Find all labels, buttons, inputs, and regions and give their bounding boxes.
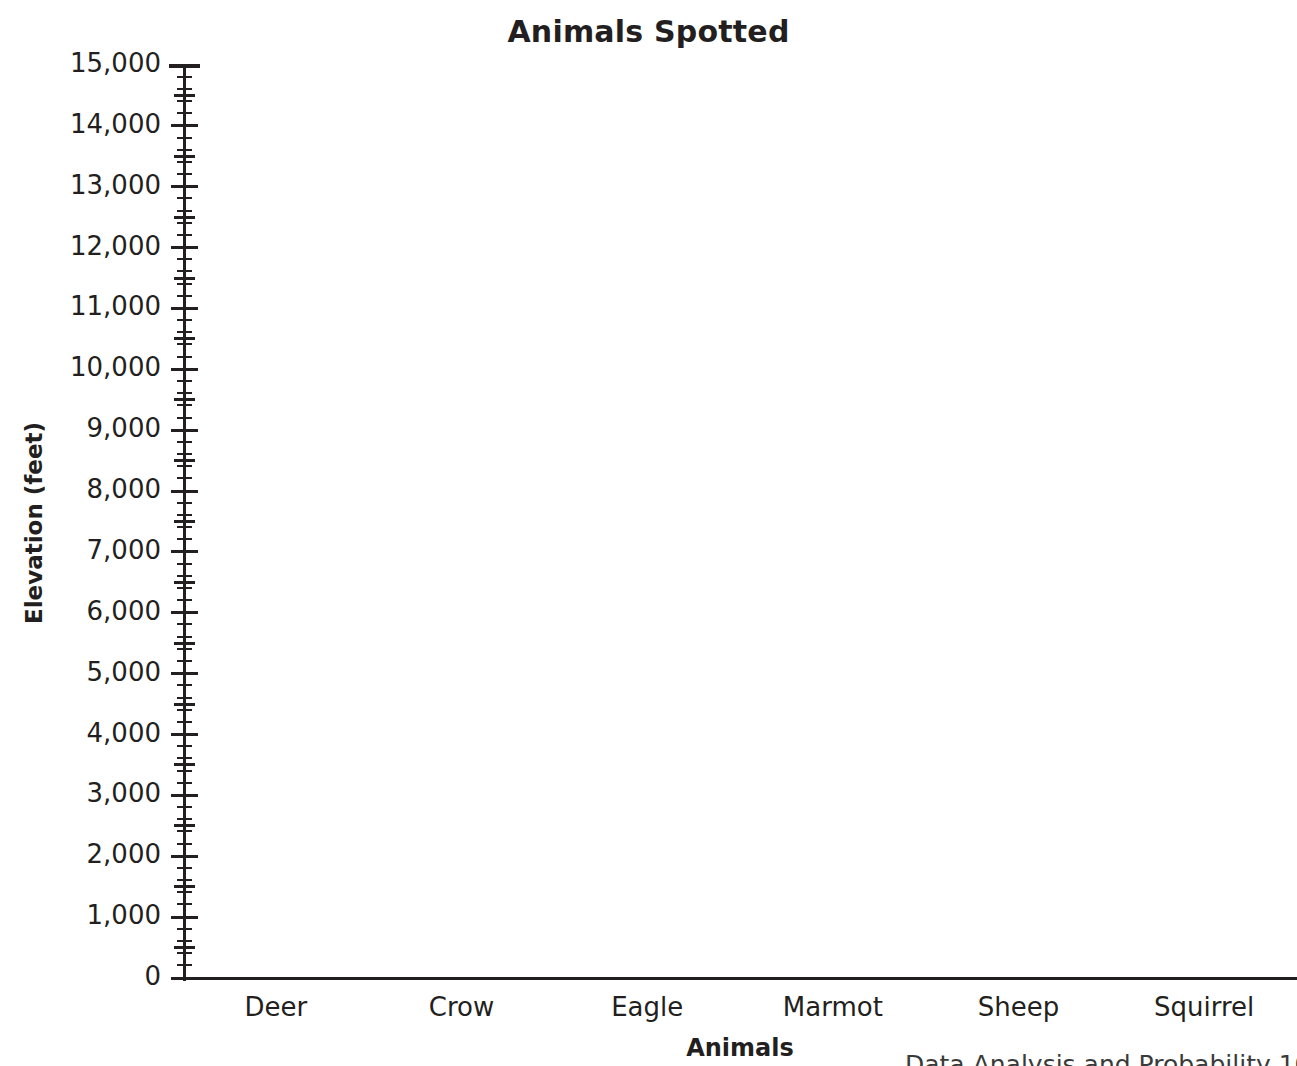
y-axis-minor-tick [177,319,192,321]
y-axis-tick-label: 14,000 [70,111,161,137]
y-axis-minor-tick [177,331,192,333]
y-axis-major-tick [171,672,198,675]
y-axis-mid-tick [174,642,195,645]
x-axis-category-label: Squirrel [1111,992,1297,1032]
y-axis-minor-tick [177,891,192,893]
y-axis-minor-tick [177,538,192,540]
x-axis-category-label: Marmot [740,992,926,1032]
y-axis-minor-tick [177,258,192,260]
y-axis-minor-tick [177,599,192,601]
y-axis-major-tick [171,550,198,553]
y-axis-tick-label: 5,000 [87,659,161,685]
y-axis-minor-tick [177,879,192,881]
page-footer: Data Analysis and Probability 107 [905,1050,1297,1066]
y-axis-mid-tick [174,520,195,523]
y-axis-mid-tick [174,824,195,827]
y-axis-mid-tick [174,946,195,949]
y-axis-tick-label: 6,000 [87,598,161,624]
y-axis-minor-tick [177,149,192,151]
x-axis-line [183,977,1297,980]
y-axis-minor-tick [177,210,192,212]
y-axis-mid-tick [174,216,195,219]
y-axis-major-tick [171,124,198,127]
y-axis-minor-tick [177,843,192,845]
y-axis-tick-label: 9,000 [87,415,161,441]
y-axis-minor-tick [177,404,192,406]
y-axis-minor-tick [177,964,192,966]
y-axis-minor-tick [177,283,192,285]
y-axis-minor-tick [177,417,192,419]
x-axis-category-label: Crow [369,992,555,1032]
y-axis-major-tick [171,368,198,371]
y-axis-tick-label: 10,000 [70,354,161,380]
y-axis-mid-tick [174,94,195,97]
y-axis-tick-label: 3,000 [87,780,161,806]
y-axis-minor-tick [177,356,192,358]
y-axis-mid-tick [174,885,195,888]
y-axis-minor-tick [177,173,192,175]
y-axis-minor-tick [177,453,192,455]
y-axis-minor-tick [177,380,192,382]
y-axis-tick-label: 8,000 [87,476,161,502]
y-axis-minor-tick [177,867,192,869]
y-axis-minor-tick [177,161,192,163]
x-axis-category-label: Sheep [926,992,1112,1032]
x-axis-category-label: Eagle [554,992,740,1032]
y-axis-major-tick [171,246,198,249]
y-axis-major-tick [171,611,198,614]
y-axis-minor-tick [177,940,192,942]
y-axis-major-tick [171,307,198,310]
y-axis-minor-tick [177,757,192,759]
y-axis-mid-tick [174,763,195,766]
y-axis-major-tick [171,733,198,736]
y-axis-major-tick [171,916,198,919]
y-axis-minor-tick [177,928,192,930]
y-axis-tick-label: 1,000 [87,902,161,928]
y-axis-major-tick [171,794,198,797]
y-axis-major-tick [171,429,198,432]
y-axis-minor-tick [177,222,192,224]
y-axis-minor-tick [177,806,192,808]
y-axis-mid-tick [174,155,195,158]
y-axis-minor-tick [177,441,192,443]
y-axis-minor-tick [177,660,192,662]
y-axis-minor-tick [177,830,192,832]
y-axis-major-tick [171,490,198,493]
y-axis-minor-tick [177,197,192,199]
y-axis-minor-tick [177,721,192,723]
y-axis-tick-label: 15,000 [70,50,161,76]
y-axis-major-tick [171,855,198,858]
y-axis-tick-label: 2,000 [87,841,161,867]
y-axis-tick-label: 11,000 [70,293,161,319]
x-axis-category-label: Deer [183,992,369,1032]
y-axis-mid-tick [174,703,195,706]
y-axis-minor-tick [177,76,192,78]
y-axis-minor-tick [177,648,192,650]
y-axis-minor-tick [177,392,192,394]
y-axis-major-tick [169,64,200,68]
y-axis-minor-tick [177,745,192,747]
y-axis-minor-tick [177,343,192,345]
y-axis-mid-tick [174,277,195,280]
y-axis-minor-tick [177,526,192,528]
y-axis-minor-tick [177,818,192,820]
y-axis-minor-tick [177,112,192,114]
plot-area: 15,00014,00013,00012,00011,00010,0009,00… [0,0,1297,1066]
y-axis-tick-label: 7,000 [87,537,161,563]
y-axis-minor-tick [177,295,192,297]
y-axis-minor-tick [177,100,192,102]
y-axis-minor-tick [177,514,192,516]
y-axis-mid-tick [174,398,195,401]
y-axis-tick-label: 0 [144,963,161,989]
y-axis-minor-tick [177,234,192,236]
y-axis-minor-tick [177,465,192,467]
y-axis-tick-label: 12,000 [70,233,161,259]
y-axis-minor-tick [177,782,192,784]
y-axis-minor-tick [177,575,192,577]
y-axis-minor-tick [177,477,192,479]
y-axis-major-tick [171,977,198,980]
y-axis-mid-tick [174,459,195,462]
y-axis-minor-tick [177,770,192,772]
y-axis-minor-tick [177,709,192,711]
y-axis-minor-tick [177,636,192,638]
